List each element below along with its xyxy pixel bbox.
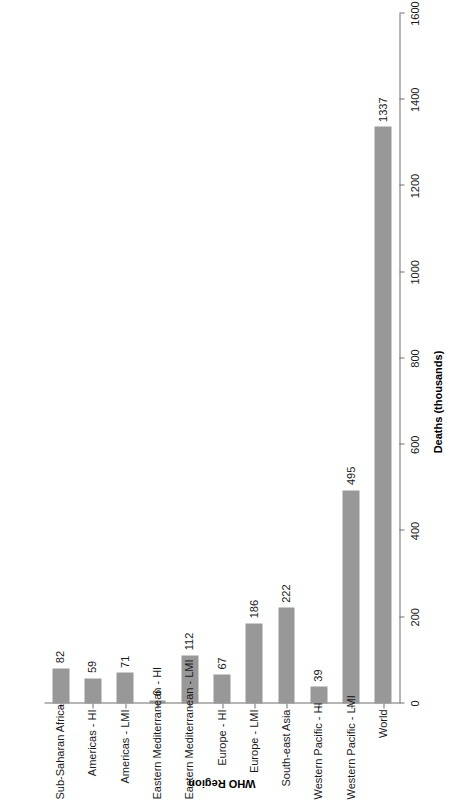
value-tick-label: 600 <box>408 414 420 474</box>
value-tick <box>399 702 404 703</box>
value-tick-label: 1200 <box>408 156 420 216</box>
bar <box>245 623 262 703</box>
bar <box>342 490 359 703</box>
category-tick <box>125 703 126 708</box>
bar <box>213 674 230 703</box>
category-tick <box>222 703 223 708</box>
bar-value-label: 71 <box>118 655 130 667</box>
value-tick <box>399 185 404 186</box>
bar <box>310 686 327 703</box>
bar-value-label: 1337 <box>376 97 388 121</box>
category-tick <box>286 703 287 708</box>
category-tick <box>92 703 93 708</box>
bar-value-label: 39 <box>311 669 323 681</box>
value-tick-label: 1000 <box>408 242 420 302</box>
bar <box>278 607 295 703</box>
category-tick <box>383 703 384 708</box>
value-tick <box>399 443 404 444</box>
bar-chart: 02004006008001000120014001600 8259716112… <box>0 0 467 803</box>
category-tick <box>254 703 255 708</box>
bar-value-label: 495 <box>344 466 356 484</box>
value-tick <box>399 98 404 99</box>
value-tick-label: 1600 <box>408 0 420 43</box>
value-tick-label: 800 <box>408 328 420 388</box>
value-tick <box>399 271 404 272</box>
bar-value-label: 82 <box>53 650 65 662</box>
bar-value-label: 112 <box>182 632 194 650</box>
value-tick-label: 400 <box>408 501 420 561</box>
bar-value-label: 59 <box>85 660 97 672</box>
value-axis-title: Deaths (thousands) <box>431 0 443 803</box>
value-tick <box>399 357 404 358</box>
value-tick <box>399 12 404 13</box>
bar <box>116 672 133 703</box>
bar-value-label: 67 <box>215 657 227 669</box>
category-axis-title: WHO Region <box>44 777 399 789</box>
value-tick-label: 200 <box>408 587 420 647</box>
bar <box>84 678 101 703</box>
bar-value-label: 186 <box>247 599 259 617</box>
value-tick <box>399 616 404 617</box>
chart-page: 02004006008001000120014001600 8259716112… <box>0 0 467 803</box>
bar-value-label: 222 <box>279 584 291 602</box>
value-tick <box>399 530 404 531</box>
bar <box>52 668 69 703</box>
value-tick-label: 0 <box>408 673 420 733</box>
plot-area: 02004006008001000120014001600 8259716112… <box>0 0 467 803</box>
value-tick-label: 1400 <box>408 69 420 129</box>
bar <box>374 126 391 703</box>
